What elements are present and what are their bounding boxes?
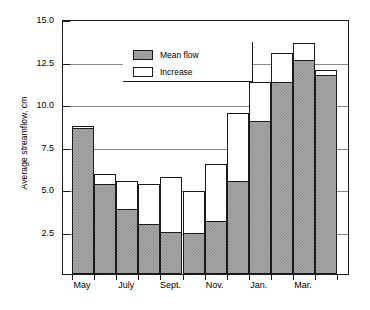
bar-group (138, 184, 160, 274)
y-axis-tick-label: 10.0 (6, 100, 54, 110)
legend-swatch-increase-icon (133, 67, 153, 77)
y-axis-tick-label: 5.0 (6, 185, 54, 195)
bar-group (183, 191, 205, 274)
bar-group (72, 126, 94, 274)
y-axis-tick-label: 7.5 (6, 143, 54, 153)
bar-segment-mean-flow (227, 181, 249, 275)
bar-segment-mean-flow (138, 224, 160, 274)
x-axis-tick-label: May (57, 280, 107, 290)
y-axis-tick-label: 15.0 (6, 15, 54, 25)
y-axis-tick-labels: 2.55.07.510.012.515.0 (6, 20, 54, 275)
bar-segment-mean-flow (183, 233, 205, 274)
x-axis-tick-label: July (101, 280, 151, 290)
plot-area: Mean flow Increase (62, 20, 349, 275)
bar-segment-mean-flow (72, 128, 94, 274)
bar-group (94, 174, 116, 274)
legend-item-increase: Increase (133, 66, 193, 78)
bar-segment-mean-flow (205, 221, 227, 274)
bar-group (271, 53, 293, 274)
x-axis-tick-label: Sept. (145, 280, 195, 290)
legend-swatch-mean-flow-icon (133, 50, 153, 60)
bar-segment-mean-flow (94, 184, 116, 274)
y-axis-tick-label: 2.5 (6, 228, 54, 238)
x-axis-tick-label: Nov. (190, 280, 240, 290)
bar-segment-mean-flow (116, 209, 138, 274)
bar-segment-mean-flow (271, 82, 293, 274)
bar-group (205, 164, 227, 275)
bar-group (116, 181, 138, 275)
bar-group (249, 82, 271, 274)
bar-segment-mean-flow (315, 75, 337, 274)
bar-segment-mean-flow (249, 121, 271, 274)
x-axis-tick-labels: MayJulySept.Nov.Jan.Mar. (62, 280, 349, 298)
bar-group (315, 70, 337, 274)
legend-label-mean-flow: Mean flow (160, 50, 199, 60)
bar-group (160, 177, 182, 274)
legend-item-mean-flow: Mean flow (133, 49, 199, 61)
bar-segment-mean-flow (293, 60, 315, 274)
bar-segment-mean-flow (160, 232, 182, 275)
bar-group (227, 113, 249, 275)
bar-group (293, 43, 315, 274)
legend-label-increase: Increase (160, 67, 193, 77)
y-axis-tick-label: 12.5 (6, 58, 54, 68)
x-axis-tick-label: Jan. (234, 280, 284, 290)
streamflow-bar-chart: Average streamflow, cm 2.55.07.510.012.5… (0, 0, 370, 310)
x-axis-tick-label: Mar. (278, 280, 328, 290)
legend: Mean flow Increase (123, 42, 253, 82)
